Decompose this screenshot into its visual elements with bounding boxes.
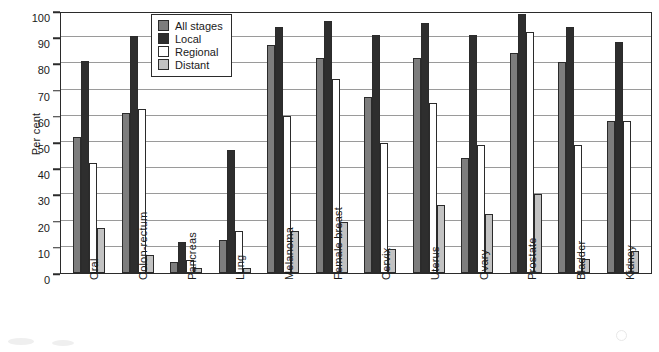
legend-item: Distant <box>158 58 223 71</box>
x-axis-label: Lung <box>234 255 246 280</box>
bar <box>421 23 429 273</box>
bar <box>615 42 623 273</box>
bar <box>372 35 380 273</box>
bar <box>413 58 421 273</box>
scan-artifact <box>52 340 74 346</box>
bar <box>469 35 477 273</box>
x-axis-label: Kidney <box>624 245 636 280</box>
legend-label: Regional <box>175 46 218 58</box>
scan-artifact <box>8 338 34 345</box>
x-label-cell: Colon-rectum <box>113 276 162 352</box>
legend-label: Distant <box>175 59 209 71</box>
x-label-cell: Melanoma <box>259 276 308 352</box>
y-tick-mark-100 <box>53 11 60 13</box>
x-label-cell: Bladder <box>551 276 600 352</box>
y-tick-mark-20 <box>53 221 60 223</box>
bar <box>566 27 574 273</box>
y-tick-mark-80 <box>53 64 60 66</box>
x-label-cell: Female breast <box>307 276 356 352</box>
bar-group <box>550 13 599 273</box>
x-axis-label: Oral <box>88 258 100 280</box>
bar <box>81 61 89 273</box>
legend-item: Local <box>158 32 223 45</box>
x-axis-label: Bladder <box>575 241 587 280</box>
x-axis-label: Uterus <box>429 246 441 280</box>
x-label-cell: Pancreas <box>161 276 210 352</box>
y-tick-mark-40 <box>53 168 60 170</box>
bar-groups <box>61 13 651 273</box>
y-axis-ticks: 0102030405060708090100 <box>0 12 60 274</box>
x-axis-label: Ovary <box>478 250 490 280</box>
legend-swatch <box>158 46 169 57</box>
x-axis-category-labels: OralColon-rectumPancreasLungMelanomaFema… <box>60 276 652 352</box>
bar <box>518 14 526 273</box>
legend-label: Local <box>175 33 201 45</box>
legend: All stagesLocalRegionalDistant <box>151 14 232 77</box>
y-tick-mark-30 <box>53 195 60 197</box>
y-tick-mark-60 <box>53 116 60 118</box>
x-axis-label: Melanoma <box>283 227 295 280</box>
bar <box>122 113 130 273</box>
bar-group <box>453 13 502 273</box>
legend-swatch <box>158 33 169 44</box>
x-axis-label: Cervix <box>380 248 392 280</box>
bar <box>461 158 469 273</box>
x-label-cell: Kidney <box>599 276 648 352</box>
bar-group <box>599 13 648 273</box>
legend-swatch <box>158 20 169 31</box>
bar <box>558 62 566 273</box>
bar-group <box>405 13 454 273</box>
bar-group <box>502 13 551 273</box>
x-axis-label: Pancreas <box>186 232 198 280</box>
scan-artifact <box>616 330 627 341</box>
bar <box>316 58 324 273</box>
bar-chart-figure: Per cent 0102030405060708090100 All stag… <box>0 0 659 352</box>
bar-group <box>65 13 114 273</box>
legend-item: All stages <box>158 19 223 32</box>
y-tick-mark-0 <box>53 273 60 275</box>
x-label-cell: Cervix <box>356 276 405 352</box>
x-label-cell: Ovary <box>453 276 502 352</box>
legend-swatch <box>158 59 169 70</box>
x-label-cell: Uterus <box>405 276 454 352</box>
y-tick-mark-50 <box>53 142 60 144</box>
bar <box>324 21 332 273</box>
bar <box>364 97 372 273</box>
x-axis-label: Female breast <box>332 207 344 280</box>
bar <box>607 121 615 273</box>
x-axis-label: Prostate <box>526 237 538 280</box>
bar <box>170 262 178 273</box>
legend-label: All stages <box>175 20 223 32</box>
bar <box>89 163 97 273</box>
x-axis-label: Colon-rectum <box>137 212 149 280</box>
x-label-cell: Lung <box>210 276 259 352</box>
bar <box>510 53 518 273</box>
bar-group <box>356 13 405 273</box>
x-label-cell: Prostate <box>502 276 551 352</box>
y-tick-mark-70 <box>53 90 60 92</box>
y-tick-mark-10 <box>53 247 60 249</box>
legend-item: Regional <box>158 45 223 58</box>
bar <box>219 240 227 273</box>
y-tick-mark-90 <box>53 37 60 39</box>
bar <box>267 45 275 273</box>
bar <box>73 137 81 273</box>
